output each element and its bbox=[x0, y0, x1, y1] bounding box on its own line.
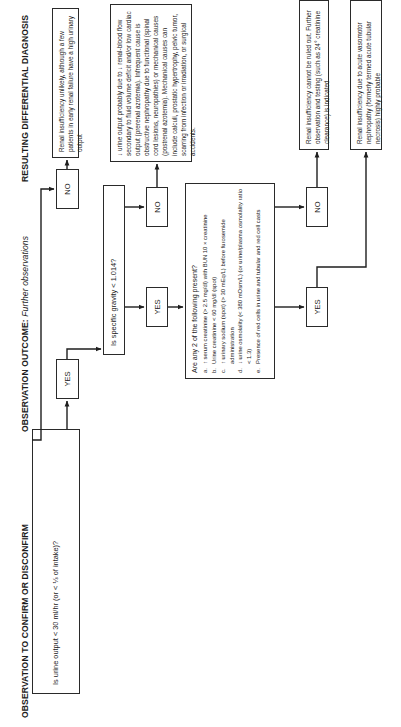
criteria-item: e.Presence of red cells in urine and tub… bbox=[254, 189, 263, 373]
criteria-text: ↑ serum creatinine (> 2.5 mg/dl) with BU… bbox=[201, 214, 210, 364]
diagnosis-vasomotor-text: Renal insufficiency due to acute vasomot… bbox=[356, 21, 381, 144]
answer-q3-yes: YES bbox=[306, 287, 328, 327]
criteria-letter: d. bbox=[236, 364, 254, 373]
question-criteria: Are any 2 of the following present? a.↑ … bbox=[185, 183, 275, 379]
criteria-item: d.↓ urine osmolality (< 380 mOsm/L) (or … bbox=[236, 189, 254, 373]
header-observation-text: OBSERVATION TO CONFIRM OR DISCONFIRM bbox=[20, 524, 30, 718]
question-criteria-title: Are any 2 of the following present? bbox=[190, 189, 200, 373]
criteria-text: Presence of red cells in urine and tubul… bbox=[254, 209, 263, 364]
criteria-item: c.↑ urinary sodium (spot) (> 30 mEq/L) b… bbox=[219, 189, 237, 373]
diagnosis-cannot-rule-out: Renal insufficiency cannot be ruled out.… bbox=[299, 0, 329, 150]
answer-q1-no: NO bbox=[56, 169, 79, 209]
header-observation: OBSERVATION TO CONFIRM OR DISCONFIRM bbox=[20, 524, 30, 718]
diagnosis-prerenal-text: ↓ urine output probably due to ↓ renal-b… bbox=[116, 11, 196, 156]
question-specific-gravity: Is specific gravity < 1.014? bbox=[103, 185, 125, 355]
header-outcome-sub: Further observations bbox=[20, 236, 30, 317]
criteria-letter: e. bbox=[254, 364, 263, 373]
criteria-text: ↑ urinary sodium (spot) (> 30 mEq/L) bef… bbox=[219, 189, 237, 364]
diagnosis-prerenal: ↓ urine output probably due to ↓ renal-b… bbox=[110, 4, 192, 162]
answer-q2-no: NO bbox=[146, 187, 168, 227]
header-diagnosis: RESULTING DIFFERENTIAL DIAGNOSIS bbox=[20, 15, 30, 182]
answer-q1-yes-label: YES bbox=[63, 371, 72, 386]
answer-q2-no-label: NO bbox=[153, 201, 162, 212]
question-urine-output: Is urine output < 30 ml/hr (or < ⅓ of in… bbox=[32, 429, 80, 694]
question-specific-gravity-text: Is specific gravity < 1.014? bbox=[109, 259, 120, 346]
answer-q2-yes-label: YES bbox=[153, 299, 162, 314]
answer-q1-no-label: NO bbox=[63, 183, 72, 194]
header-outcome-label: OBSERVATION OUTCOME: bbox=[20, 319, 30, 432]
criteria-letter: a. bbox=[201, 364, 210, 373]
criteria-item: a.↑ serum creatinine (> 2.5 mg/dl) with … bbox=[201, 189, 210, 373]
criteria-text: ↓ urine osmolality (< 380 mOsm/L) (or ur… bbox=[236, 189, 254, 364]
diagnosis-vasomotor: Renal insufficiency due to acute vasomot… bbox=[350, 0, 382, 150]
diagnosis-unlikely: Renal insufficiency unlikely, although a… bbox=[52, 8, 79, 158]
flowchart-canvas: OBSERVATION TO CONFIRM OR DISCONFIRM OBS… bbox=[0, 0, 401, 727]
header-outcome: OBSERVATION OUTCOME: Further observation… bbox=[20, 236, 30, 432]
criteria-list: a.↑ serum creatinine (> 2.5 mg/dl) with … bbox=[201, 189, 263, 373]
answer-q3-no-label: NO bbox=[313, 201, 322, 212]
diagnosis-cannot-rule-out-text: Renal insufficiency cannot be ruled out.… bbox=[305, 10, 330, 144]
criteria-letter: b. bbox=[210, 364, 219, 373]
diagnosis-unlikely-text: Renal insufficiency unlikely, although a… bbox=[58, 16, 83, 152]
criteria-item: b.Urine creatinine < 60 mg/dl (spot) bbox=[210, 189, 219, 373]
answer-q2-yes: YES bbox=[146, 287, 168, 327]
answer-q3-yes-label: YES bbox=[313, 299, 322, 314]
answer-q3-no: NO bbox=[306, 187, 328, 227]
question-urine-output-text: Is urine output < 30 ml/hr (or < ⅓ of in… bbox=[51, 541, 62, 685]
criteria-text: Urine creatinine < 60 mg/dl (spot) bbox=[210, 277, 219, 364]
criteria-letter: c. bbox=[219, 364, 237, 373]
header-diagnosis-text: RESULTING DIFFERENTIAL DIAGNOSIS bbox=[20, 15, 30, 182]
answer-q1-yes: YES bbox=[56, 359, 79, 399]
